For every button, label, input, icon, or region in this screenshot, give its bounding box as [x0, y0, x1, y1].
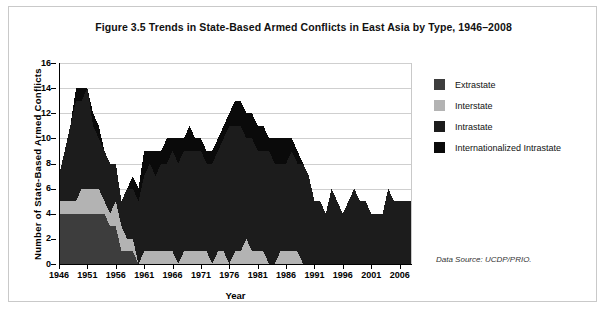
x-tick-mark	[286, 265, 287, 269]
legend-item[interactable]: Interstate	[434, 96, 594, 115]
x-tick-mark	[87, 265, 88, 269]
legend-label: Internationalized Intrastate	[455, 143, 561, 153]
legend-item[interactable]: Internationalized Intrastate	[434, 138, 594, 157]
y-tick-mark	[51, 164, 56, 165]
chart-legend: ExtrastateInterstateIntrastateInternatio…	[434, 75, 594, 159]
x-tick-mark	[201, 265, 202, 269]
legend-swatch-icon	[434, 142, 445, 153]
x-tick-mark	[371, 265, 372, 269]
x-tick-mark	[173, 265, 174, 269]
y-tick-mark	[51, 138, 56, 139]
y-tick-mark	[51, 214, 56, 215]
y-tick-mark	[51, 189, 56, 190]
plot-panel: 0246810121416 19461951195619611966197119…	[51, 54, 419, 276]
x-tick-mark	[343, 265, 344, 269]
legend-label: Interstate	[455, 101, 493, 111]
x-tick-mark	[116, 265, 117, 269]
y-tick-mark	[51, 113, 56, 114]
plot-area	[59, 63, 412, 264]
y-axis-line	[59, 63, 60, 265]
legend-label: Intrastate	[455, 122, 493, 132]
data-source-note: Data Source: UCDP/PRIO.	[436, 255, 532, 264]
legend-swatch-icon	[434, 121, 445, 132]
y-tick-mark	[51, 88, 56, 89]
legend-item[interactable]: Extrastate	[434, 75, 594, 94]
legend-label: Extrastate	[455, 80, 496, 90]
x-tick-label: 2006	[383, 270, 417, 280]
x-axis-title: Year	[59, 290, 412, 301]
x-axis-ticks: 1946195119561961196619711976198119861991…	[59, 265, 412, 283]
legend-swatch-icon	[434, 100, 445, 111]
x-tick-mark	[144, 265, 145, 269]
x-tick-mark	[400, 265, 401, 269]
legend-swatch-icon	[434, 79, 445, 90]
x-tick-mark	[314, 265, 315, 269]
y-axis-title: Number of State-Based Armed Conflicts	[32, 59, 43, 269]
x-tick-mark	[59, 265, 60, 269]
stacked-area-series	[59, 63, 411, 264]
x-tick-mark	[229, 265, 230, 269]
y-tick-mark	[51, 239, 56, 240]
figure-title: Figure 3.5 Trends in State-Based Armed C…	[9, 21, 598, 33]
legend-item[interactable]: Intrastate	[434, 117, 594, 136]
y-tick-mark	[51, 264, 56, 265]
figure-frame: Figure 3.5 Trends in State-Based Armed C…	[8, 6, 597, 302]
x-tick-mark	[258, 265, 259, 269]
y-tick-mark	[51, 63, 56, 64]
